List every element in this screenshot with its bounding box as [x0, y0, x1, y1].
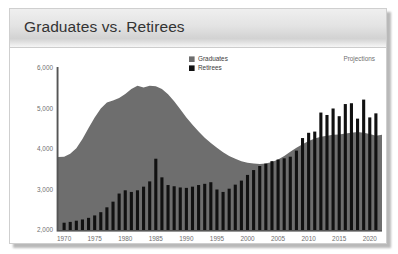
retirees-bar [142, 187, 145, 230]
retirees-bar [160, 177, 163, 230]
retirees-bar [258, 166, 261, 230]
y-axis-line [57, 67, 59, 230]
retirees-bar [130, 192, 133, 230]
retirees-bar [252, 170, 255, 230]
screenshot-root: Graduates vs. Retirees 2,0003,0004,0005,… [0, 0, 398, 254]
x-axis-tick-label: 1980 [118, 235, 133, 242]
retirees-bar [368, 117, 371, 230]
x-axis-tick-label: 2000 [240, 235, 255, 242]
retirees-bar [203, 184, 206, 230]
retirees-bar [215, 190, 218, 231]
retirees-bar [325, 115, 328, 230]
retirees-bar [301, 138, 304, 230]
legend-swatch [189, 65, 195, 71]
retirees-bar [99, 212, 102, 230]
retirees-bar [87, 218, 90, 230]
retirees-bar [283, 158, 286, 230]
retirees-bar [234, 185, 237, 230]
x-axis-tick-label: 1990 [179, 235, 194, 242]
retirees-bar [277, 160, 280, 230]
retirees-bar [105, 207, 108, 230]
legend-swatch [189, 56, 195, 62]
x-axis-tick-label: 2005 [271, 235, 286, 242]
x-axis-tick-label: 1975 [88, 235, 103, 242]
retirees-bar [154, 159, 157, 230]
x-axis-tick-label: 1985 [149, 235, 164, 242]
retirees-bar [148, 181, 151, 230]
retirees-bar [350, 103, 353, 230]
retirees-bar [173, 186, 176, 230]
retirees-bar [75, 221, 78, 230]
retirees-bar [246, 175, 249, 230]
y-axis-tick-label: 4,000 [37, 145, 53, 152]
x-axis-line [57, 230, 382, 232]
retirees-bar [338, 116, 341, 230]
legend-label: Graduates [198, 55, 228, 62]
retirees-bar [362, 100, 365, 230]
x-axis-tick-label: 2010 [302, 235, 317, 242]
y-axis-tick-label: 6,000 [37, 64, 53, 71]
retirees-bar [197, 185, 200, 230]
retirees-bar [136, 190, 139, 230]
retirees-bar [93, 215, 96, 230]
retirees-bar [222, 192, 225, 230]
retirees-bar [179, 187, 182, 230]
retirees-bar [228, 189, 231, 230]
x-axis-tick-label: 2020 [363, 235, 378, 242]
retirees-bar [118, 194, 121, 230]
retirees-bar [111, 202, 114, 230]
y-axis-tick-label: 3,000 [37, 186, 53, 193]
x-axis-tick-label: 2015 [332, 235, 347, 242]
retirees-bar [295, 151, 298, 230]
graduates-vs-retirees-chart: 2,0003,0004,0005,0006,000197019751980198… [10, 48, 386, 243]
retirees-bar [307, 133, 310, 230]
retirees-bar [185, 188, 188, 230]
retirees-bar [264, 164, 267, 230]
retirees-bar [166, 185, 169, 230]
chart-plot-area: 2,0003,0004,0005,0006,000197019751980198… [10, 48, 386, 243]
y-axis-tick-label: 2,000 [37, 226, 53, 233]
legend-label: Retirees [198, 64, 222, 71]
retirees-bar [209, 182, 212, 230]
retirees-bar [356, 119, 359, 230]
retirees-bar [63, 223, 66, 230]
retirees-bar [289, 157, 292, 230]
retirees-bar [332, 109, 335, 231]
retirees-bar [191, 187, 194, 230]
retirees-bar [69, 222, 72, 230]
card-titlebar: Graduates vs. Retirees [10, 9, 386, 48]
retirees-bar [124, 190, 127, 230]
x-axis-tick-label: 1995 [210, 235, 225, 242]
retirees-bar [344, 104, 347, 230]
retirees-bar [270, 161, 273, 230]
projections-annotation: Projections [343, 55, 375, 63]
retirees-bar [374, 113, 377, 230]
page-title: Graduates vs. Retirees [24, 18, 185, 36]
y-axis-tick-label: 5,000 [37, 105, 53, 112]
x-axis-tick-label: 1970 [57, 235, 72, 242]
retirees-bar [240, 181, 243, 230]
retirees-bar [319, 113, 322, 230]
chart-card: Graduates vs. Retirees 2,0003,0004,0005,… [9, 8, 387, 244]
retirees-bar [81, 219, 84, 230]
retirees-bar [313, 132, 316, 230]
